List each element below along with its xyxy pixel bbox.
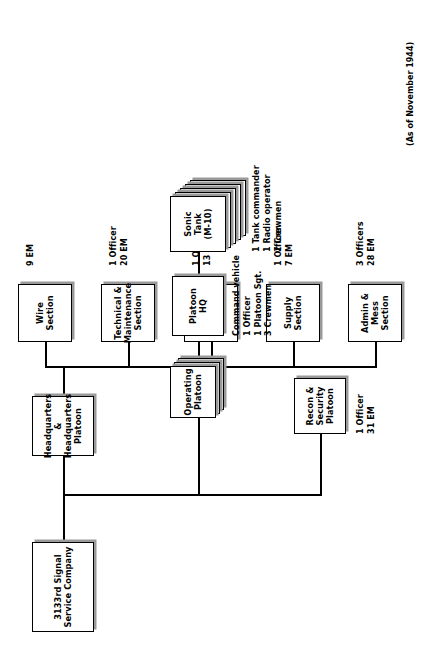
- platoon-hq-detail-line2: 1 Officer: [243, 255, 254, 336]
- platoon-hq-detail-line1: Command vehicle: [232, 255, 243, 336]
- technical-strength-line2: 20 EM: [120, 226, 131, 266]
- root-node-signal-service-company[interactable]: 3133rd Signal Service Company: [32, 542, 94, 632]
- operating-platoon-label-line1: Operating: [183, 368, 193, 415]
- admin-mess-label-line1: Admin & Mess: [360, 288, 381, 338]
- node-recon-security-platoon[interactable]: Recon & Security Platoon: [294, 378, 346, 434]
- sonic-tank-label-line2: (M-10): [203, 200, 213, 248]
- root-label-line1: 3133rd Signal: [53, 546, 63, 627]
- platoon-hq-label-line1: Platoon: [188, 288, 198, 324]
- connector-trunk-to-recon-platoon: [320, 434, 322, 496]
- sonic-tank-label-line1: Sonic Tank: [183, 200, 204, 248]
- as-of-date-note: (As of November 1944): [406, 42, 415, 146]
- wire-strength-line1: 9 EM: [26, 244, 37, 266]
- platoon-hq-label-line2: HQ: [198, 288, 208, 324]
- sonic-tank-detail-line3: 2 Crewmen: [274, 165, 285, 252]
- connector-hq-platoon-right: [63, 368, 65, 396]
- caption-technical-maintenance-section: 1 Officer 20 EM: [109, 226, 131, 266]
- node-headquarters-platoon[interactable]: Headquarters & Headquarters Platoon: [32, 396, 94, 456]
- connector-trunk-to-operating-platoon: [198, 418, 200, 496]
- supply-label-line2: Section: [293, 295, 303, 330]
- technical-label-line1: Technical &: [113, 283, 123, 343]
- connector-section-admin: [375, 342, 377, 368]
- connector-section-technical: [128, 342, 130, 368]
- wire-label-line2: Section: [45, 295, 55, 330]
- connector-root-right: [63, 496, 65, 542]
- caption-wire-section: 9 EM: [26, 244, 37, 266]
- admin-mess-label-line2: Section: [380, 288, 390, 338]
- connector-trunk-to-hq-platoon: [63, 456, 65, 496]
- platoon-hq-detail-line4: 3 Crewmen: [264, 255, 275, 336]
- hq-platoon-label-line3: Platoon: [73, 394, 83, 459]
- rotated-chart-wrapper: 3133rd Signal Service Company Headquarte…: [0, 0, 444, 654]
- connector-section-wire: [45, 342, 47, 368]
- platoon-hq-detail-line3: 1 Platoon Sgt.: [254, 255, 265, 336]
- recon-strength-line2: 31 EM: [367, 394, 378, 434]
- node-technical-maintenance-section[interactable]: Technical & Maintenance Section: [101, 284, 155, 342]
- technical-strength-line1: 1 Officer: [109, 226, 120, 266]
- sonic-tank-detail-line2: 1 Radio operator: [263, 165, 274, 252]
- connector-trunk-vertical: [63, 495, 321, 497]
- node-admin-mess-section[interactable]: Admin & Mess Section: [348, 284, 402, 342]
- recon-strength-line1: 1 Officer: [356, 394, 367, 434]
- recon-label-line2: Security Platoon: [315, 382, 336, 430]
- caption-recon-security-platoon: 1 Officer 31 EM: [356, 394, 378, 434]
- caption-admin-mess-section: 3 Officers 28 EM: [356, 221, 378, 266]
- org-chart-canvas: 3133rd Signal Service Company Headquarte…: [0, 0, 444, 654]
- supply-strength-line2: 7 EM: [285, 226, 296, 266]
- node-operating-platoon[interactable]: Operating Platoon: [170, 366, 216, 418]
- sonic-tank-detail-line1: 1 Tank commander: [252, 165, 263, 252]
- recon-label-line1: Recon &: [305, 382, 315, 430]
- technical-label-line3: Section: [133, 283, 143, 343]
- caption-platoon-hq: Command vehicle 1 Officer 1 Platoon Sgt.…: [232, 255, 275, 336]
- admin-mess-strength-line2: 28 EM: [367, 221, 378, 266]
- connector-section-supply: [293, 342, 295, 368]
- root-label-line2: Service Company: [63, 546, 73, 627]
- technical-label-line2: Maintenance: [123, 283, 133, 343]
- node-wire-section[interactable]: Wire Section: [18, 284, 72, 342]
- admin-mess-strength-line1: 3 Officers: [356, 221, 367, 266]
- node-sonic-tank[interactable]: Sonic Tank (M-10): [170, 196, 226, 252]
- operating-platoon-label-line2: Platoon: [193, 368, 203, 415]
- hq-platoon-label-line1: Headquarters &: [43, 394, 64, 459]
- supply-label-line1: Supply: [283, 295, 293, 330]
- caption-sonic-tank: 1 Tank commander 1 Radio operator 2 Crew…: [252, 165, 284, 252]
- hq-platoon-label-line2: Headquarters: [63, 394, 73, 459]
- node-platoon-hq[interactable]: Platoon HQ: [172, 276, 224, 336]
- wire-label-line1: Wire: [35, 295, 45, 330]
